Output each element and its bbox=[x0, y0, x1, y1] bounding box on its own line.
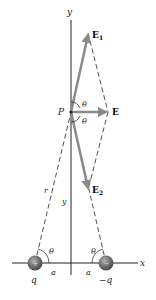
dashed-e-to-e2 bbox=[88, 112, 108, 190]
r-label: r bbox=[44, 186, 49, 195]
vector-e2-label: E2 bbox=[92, 185, 103, 196]
y-distance-label: y bbox=[61, 197, 67, 206]
r-line-left bbox=[35, 112, 71, 263]
a-left-label: a bbox=[51, 268, 56, 277]
x-axis-label: x bbox=[140, 258, 145, 268]
theta-label-lower: θ bbox=[82, 117, 87, 126]
theta-label-right-charge: θ bbox=[91, 247, 96, 256]
theta-label-upper: θ bbox=[82, 100, 87, 109]
dashed-e1-to-e bbox=[88, 33, 108, 112]
point-p-label: P bbox=[57, 107, 65, 117]
vector-e1-label: E1 bbox=[92, 30, 103, 41]
negative-charge-sign: − bbox=[104, 260, 110, 268]
a-right-label: a bbox=[86, 268, 91, 277]
positive-charge-sign: + bbox=[33, 260, 39, 268]
positive-charge-label: q bbox=[31, 275, 37, 285]
point-p bbox=[69, 110, 72, 113]
theta-label-left-charge: θ bbox=[49, 247, 54, 256]
dipole-field-diagram: y x θ θ P E1 E E2 r y a a θ θ + − q −q bbox=[0, 0, 156, 300]
y-axis-label: y bbox=[66, 7, 73, 17]
vector-e-label: E bbox=[112, 107, 119, 117]
negative-charge-label: −q bbox=[99, 275, 113, 285]
